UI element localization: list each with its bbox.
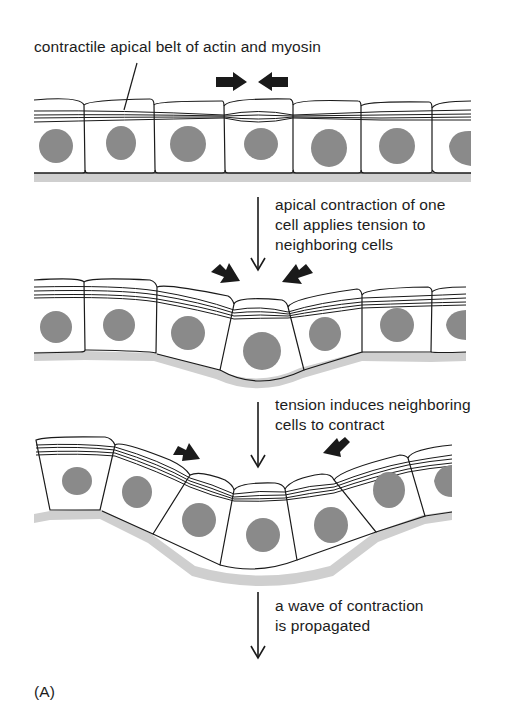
diagram-canvas: [0, 0, 527, 726]
stage-2-force-arrows: [211, 263, 313, 284]
belt-pointer-line: [124, 63, 137, 110]
stage-3-nuclei: [62, 465, 452, 552]
flow-arrow-2-icon: [251, 402, 265, 467]
flow-arrow-1-icon: [251, 197, 265, 270]
stage-3-force-arrows: [173, 437, 350, 461]
stage-2-epithelium: [34, 263, 466, 388]
stage-3-epithelium: [34, 437, 452, 586]
force-arrow-down-left-icon: [282, 264, 313, 284]
force-arrow-left-icon: [258, 72, 288, 91]
force-arrow-right-icon: [216, 72, 247, 91]
flow-arrow-3-icon: [251, 592, 265, 658]
stage-1-force-arrows: [216, 72, 288, 91]
stage-1-nuclei: [39, 126, 471, 167]
force-arrow-down-right-icon: [211, 263, 240, 283]
force-arrow-down-left-icon: [323, 437, 350, 457]
basal-lamina: [34, 173, 471, 182]
stage-1-epithelium: [34, 63, 471, 182]
force-arrow-down-right-icon: [173, 443, 200, 461]
stage-1-apical-belt: [34, 110, 471, 122]
basal-lamina: [34, 509, 452, 586]
